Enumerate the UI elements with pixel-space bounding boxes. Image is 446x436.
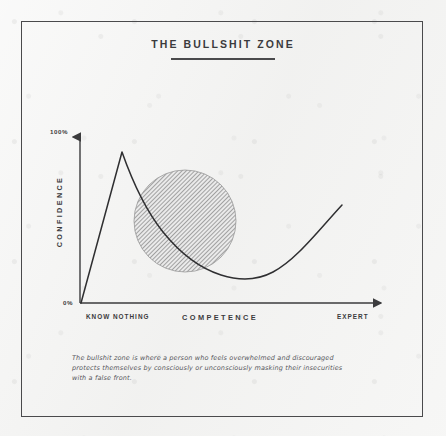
caption-line-1: The bullshit zone is where a person who … <box>72 353 372 363</box>
caption-line-3: with a false front. <box>72 373 372 383</box>
caption-block: The bullshit zone is where a person who … <box>72 353 372 384</box>
x-axis-right-tick-label: EXPERT <box>337 313 369 320</box>
caption-line-2: protects themselves by consciously or un… <box>72 363 372 373</box>
y-axis-title: CONFIDENCE <box>55 147 64 277</box>
y-axis-max-tick-label: 100% <box>50 128 68 135</box>
bullshit-zone-circle <box>134 170 236 272</box>
y-axis-min-tick-label: 0% <box>63 299 73 306</box>
x-axis-title: COMPETENCE <box>182 313 258 322</box>
x-axis-left-tick-label: KNOW NOTHING <box>86 313 149 320</box>
poster-canvas: THE BULLSHIT ZONE 100% 0% CONFIDENCE KNO… <box>0 0 446 436</box>
